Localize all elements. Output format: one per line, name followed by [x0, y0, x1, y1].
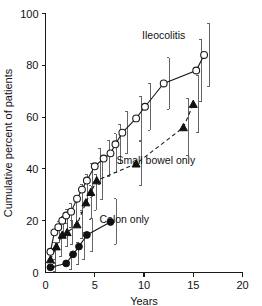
data-point-ileocolitis	[107, 150, 114, 157]
data-point-ileocolitis	[79, 186, 86, 193]
y-tick-label: 60	[26, 111, 38, 123]
chart-container: 020406080100 05101520 IleocolitisSmall b…	[0, 0, 262, 306]
series-label-colon-only: Colon only	[99, 213, 149, 225]
data-point-colon-only	[83, 232, 90, 239]
data-point-small-bowel-only	[189, 100, 197, 107]
y-axis-ticks: 020406080100	[20, 8, 45, 279]
data-point-ileocolitis	[112, 141, 119, 148]
error-bar	[196, 76, 199, 133]
data-point-small-bowel-only	[46, 256, 54, 263]
x-tick-label: 0	[42, 279, 48, 291]
error-bar	[186, 99, 189, 156]
data-point-ileocolitis	[68, 208, 75, 215]
data-point-ileocolitis	[74, 195, 81, 202]
data-point-ileocolitis	[83, 177, 90, 184]
data-point-small-bowel-only	[82, 199, 90, 206]
data-point-colon-only	[76, 243, 83, 250]
x-axis-title: Years	[130, 295, 158, 306]
x-tick-label: 10	[138, 279, 150, 291]
data-point-small-bowel-only	[93, 177, 101, 184]
error-bars-group	[53, 24, 209, 271]
x-axis-ticks: 05101520	[42, 273, 248, 291]
y-axis-title: Cumulative percent of patients	[2, 68, 14, 217]
y-tick-label: 40	[26, 163, 38, 175]
series-line-small-bowel-only	[50, 104, 193, 259]
x-tick-label: 20	[236, 279, 248, 291]
data-point-colon-only	[47, 264, 54, 271]
data-point-colon-only	[70, 251, 77, 258]
data-point-ileocolitis	[201, 52, 208, 59]
data-point-small-bowel-only	[179, 123, 187, 130]
x-tick-label: 5	[92, 279, 98, 291]
data-point-ileocolitis	[133, 115, 140, 122]
x-tick-label: 15	[187, 279, 199, 291]
data-point-small-bowel-only	[87, 188, 95, 195]
data-point-ileocolitis	[100, 155, 107, 162]
data-point-colon-only	[63, 260, 70, 267]
y-tick-label: 20	[26, 215, 38, 227]
data-point-small-bowel-only	[52, 243, 60, 250]
series-label-ileocolitis: Ileocolitis	[142, 29, 185, 41]
y-tick-label: 80	[26, 59, 38, 71]
y-tick-label: 100	[20, 8, 38, 20]
data-point-ileocolitis	[91, 163, 98, 170]
series-label-small-bowel-only: Small bowel only	[116, 154, 196, 166]
data-point-ileocolitis	[142, 103, 149, 110]
cumulative-percent-chart: 020406080100 05101520 IleocolitisSmall b…	[0, 0, 262, 306]
data-point-ileocolitis	[160, 80, 167, 87]
axes-group	[46, 14, 243, 273]
data-point-ileocolitis	[119, 129, 126, 136]
data-point-ileocolitis	[55, 224, 62, 231]
data-point-ileocolitis	[193, 67, 200, 74]
y-tick-label: 0	[32, 267, 38, 279]
